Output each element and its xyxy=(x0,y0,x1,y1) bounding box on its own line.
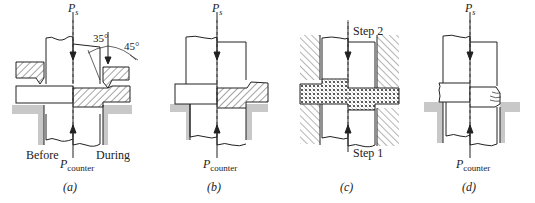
upper-punch xyxy=(443,35,470,83)
label-pcounter-a: Pcounter xyxy=(60,157,94,173)
die-left xyxy=(12,105,44,145)
label-step2: Step 2 xyxy=(353,24,383,39)
sheet-before xyxy=(16,86,73,103)
blank xyxy=(470,87,500,107)
panel-d xyxy=(424,12,520,158)
label-ps-d: Ps xyxy=(465,1,475,17)
label-ps-b: Ps xyxy=(212,1,222,17)
die-right xyxy=(103,105,132,145)
caption-d: (d) xyxy=(462,180,476,195)
upper-punch xyxy=(186,36,217,84)
caption-b: (b) xyxy=(207,180,221,195)
label-step1: Step 1 xyxy=(353,146,383,161)
caption-c: (c) xyxy=(340,180,353,195)
panel-b xyxy=(170,12,268,158)
upper-punch xyxy=(46,37,73,85)
label-pcounter-d: Pcounter xyxy=(456,157,490,173)
label-during: During xyxy=(96,148,130,163)
slug xyxy=(439,83,470,102)
caption-a: (a) xyxy=(63,180,77,195)
upper-punch xyxy=(322,37,348,80)
sheet-during xyxy=(73,86,130,107)
label-ps-a: Ps xyxy=(68,1,78,17)
panel-a xyxy=(12,12,138,158)
sheet-before xyxy=(175,84,217,104)
stripper-left xyxy=(16,62,44,84)
label-before: Before xyxy=(26,148,59,163)
panel-c xyxy=(300,20,399,152)
angle-45: 45° xyxy=(124,40,139,52)
stripper-right xyxy=(103,67,129,88)
angle-35: 35° xyxy=(93,32,108,44)
label-pcounter-b: Pcounter xyxy=(203,157,237,173)
lower-punch xyxy=(46,114,73,141)
